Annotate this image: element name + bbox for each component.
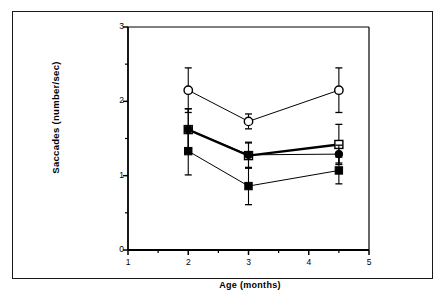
marker-open-circle [335,86,343,94]
x-axis-label: Age (months) [130,280,370,290]
marker-open-circle [244,117,252,125]
y-tick-label: 3 [112,21,124,31]
y-axis-label: Saccades (number/sec) [50,23,61,213]
series-line [188,151,339,186]
series-line [188,130,339,155]
series-filled-circle [184,109,342,168]
x-tick-label: 4 [301,257,317,267]
chart-plot [0,0,445,306]
x-tick-label: 2 [180,257,196,267]
series-open-circle [184,68,343,129]
x-tick-label: 5 [361,257,377,267]
marker-filled-circle [245,151,253,159]
series-line [188,90,339,121]
series-line [188,130,339,156]
marker-filled-square [335,167,342,174]
x-tick-label: 3 [241,257,257,267]
marker-filled-square [185,147,192,154]
marker-filled-square [245,182,252,189]
y-tick-label: 0 [112,244,124,254]
y-tick-label: 2 [112,95,124,105]
x-tick-label: 1 [120,257,136,267]
series-open-square [184,109,343,168]
y-tick-label: 1 [112,170,124,180]
marker-open-circle [184,86,192,94]
figure-container: Saccades (number/sec) Age (months) 01231… [0,0,445,306]
